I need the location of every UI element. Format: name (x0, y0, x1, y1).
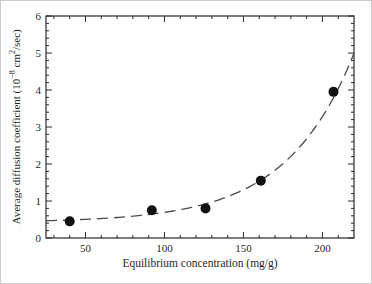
data-point (147, 205, 157, 215)
x-tick-label: 150 (226, 242, 260, 254)
y-tick-label: 3 (17, 121, 41, 133)
trend-curve-dashed (46, 53, 354, 221)
data-point (65, 216, 75, 226)
y-tick-label: 4 (17, 84, 41, 96)
data-point (201, 203, 211, 213)
data-point (328, 87, 338, 97)
data-point (256, 176, 266, 186)
y-tick-label: 2 (17, 158, 41, 170)
y-tick-label: 1 (17, 195, 41, 207)
y-tick-label: 5 (17, 47, 41, 59)
x-tick-label: 50 (68, 242, 102, 254)
x-axis-title: Equilibrium concentration (mg/g) (46, 257, 354, 269)
scatter-chart-figure: Average diffusion coefficient (10−8 cm2/… (0, 0, 372, 284)
y-tick-label: 0 (17, 232, 41, 244)
y-axis-title-exponent: −8 (8, 70, 17, 79)
x-tick-label: 200 (305, 242, 339, 254)
x-tick-label: 100 (147, 242, 181, 254)
y-tick-label: 6 (17, 10, 41, 22)
y-axis-title-squared: 2 (8, 50, 17, 54)
